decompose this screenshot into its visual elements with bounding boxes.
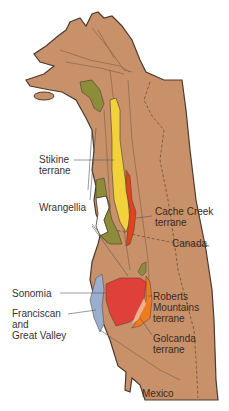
label-golcanda: Golcanda terrane [153,333,196,355]
label-stikine: Stikine terrane [39,154,71,176]
label-canada: Canada [172,238,207,249]
label-mexico: Mexico [142,388,174,399]
label-wrangellia: Wrangellia [39,202,86,213]
label-sonomia: Sonomia [12,288,51,299]
label-franciscan: Franciscan and Great Valley [12,308,66,341]
island [34,92,54,100]
label-cache-creek: Cache Creek terrane [155,206,213,228]
label-roberts-mountains: Roberts Mountains terrane [153,291,199,324]
